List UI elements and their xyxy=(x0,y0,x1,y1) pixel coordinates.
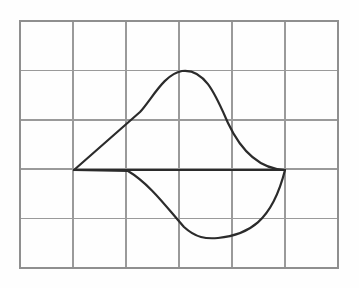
curve-diagram xyxy=(0,0,359,288)
figure-canvas xyxy=(0,0,359,288)
